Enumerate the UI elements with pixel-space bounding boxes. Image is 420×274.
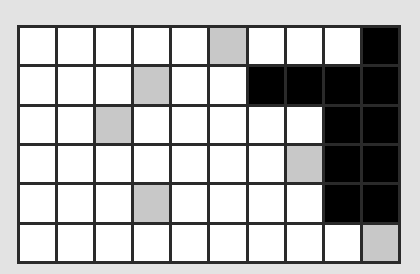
- grid-cell-r4-c3: [134, 185, 169, 221]
- grid-cell-r2-c4: [172, 107, 207, 143]
- grid-cell-r1-c1: [58, 67, 93, 103]
- grid-cell-r1-c0: [20, 67, 55, 103]
- grid-cell-r2-c6: [249, 107, 284, 143]
- grid-cell-r5-c3: [134, 225, 169, 261]
- grid-cell-r2-c9: [363, 107, 398, 143]
- grid-cell-r0-c0: [20, 28, 55, 64]
- grid-cell-r1-c5: [210, 67, 245, 103]
- grid-cell-r3-c6: [249, 146, 284, 182]
- grid-cell-r4-c9: [363, 185, 398, 221]
- grid-cell-r3-c0: [20, 146, 55, 182]
- grid-cell-r1-c6: [249, 67, 284, 103]
- grid-cell-r5-c7: [287, 225, 322, 261]
- grid-cell-r3-c2: [96, 146, 131, 182]
- grid-cell-r5-c6: [249, 225, 284, 261]
- pixel-grid: [17, 25, 401, 264]
- grid-cell-r0-c5: [210, 28, 245, 64]
- grid-cell-r1-c3: [134, 67, 169, 103]
- grid-cell-r2-c8: [325, 107, 360, 143]
- grid-cell-r2-c0: [20, 107, 55, 143]
- grid-cell-r3-c1: [58, 146, 93, 182]
- grid-cell-r2-c1: [58, 107, 93, 143]
- grid-cell-r2-c5: [210, 107, 245, 143]
- grid-cell-r5-c9: [363, 225, 398, 261]
- grid-cell-r4-c7: [287, 185, 322, 221]
- grid-cell-r2-c3: [134, 107, 169, 143]
- grid-cell-r5-c4: [172, 225, 207, 261]
- grid-cell-r0-c1: [58, 28, 93, 64]
- grid-cell-r3-c7: [287, 146, 322, 182]
- grid-cell-r1-c9: [363, 67, 398, 103]
- grid-cell-r0-c3: [134, 28, 169, 64]
- grid-cell-r1-c7: [287, 67, 322, 103]
- grid-cell-r0-c6: [249, 28, 284, 64]
- grid-cell-r3-c3: [134, 146, 169, 182]
- grid-cell-r5-c1: [58, 225, 93, 261]
- grid-cell-r0-c9: [363, 28, 398, 64]
- grid-cell-r4-c2: [96, 185, 131, 221]
- grid-cell-r3-c9: [363, 146, 398, 182]
- grid-cell-r5-c8: [325, 225, 360, 261]
- grid-cell-r1-c2: [96, 67, 131, 103]
- grid-cell-r3-c4: [172, 146, 207, 182]
- grid-cell-r3-c5: [210, 146, 245, 182]
- grid-cell-r3-c8: [325, 146, 360, 182]
- grid-cell-r2-c7: [287, 107, 322, 143]
- grid-cell-r2-c2: [96, 107, 131, 143]
- grid-cell-r0-c4: [172, 28, 207, 64]
- grid-cell-r0-c8: [325, 28, 360, 64]
- grid-cell-r4-c4: [172, 185, 207, 221]
- grid-cell-r4-c5: [210, 185, 245, 221]
- grid-cell-r4-c0: [20, 185, 55, 221]
- grid-cell-r4-c8: [325, 185, 360, 221]
- grid-cell-r0-c7: [287, 28, 322, 64]
- grid-cell-r1-c8: [325, 67, 360, 103]
- grid-cell-r1-c4: [172, 67, 207, 103]
- grid-cell-r0-c2: [96, 28, 131, 64]
- grid-cell-r5-c2: [96, 225, 131, 261]
- grid-cell-r4-c1: [58, 185, 93, 221]
- grid-cell-r4-c6: [249, 185, 284, 221]
- grid-cell-r5-c5: [210, 225, 245, 261]
- grid-cell-r5-c0: [20, 225, 55, 261]
